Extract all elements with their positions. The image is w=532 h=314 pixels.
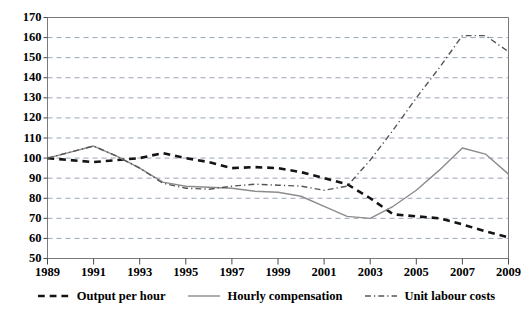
y-axis-tick-label: 140 (8, 71, 42, 84)
series-line-1 (48, 153, 509, 237)
axis-ticks-group (44, 18, 509, 265)
x-axis-tick-label: 1999 (254, 266, 302, 279)
y-axis-tick-label: 50 (8, 252, 42, 265)
y-axis-tick-label: 90 (8, 172, 42, 185)
legend-item[interactable]: Output per hour (37, 289, 166, 304)
x-axis-tick-label: 2005 (392, 266, 440, 279)
dash-dot-line-swatch (364, 290, 398, 302)
y-axis-tick-label: 170 (8, 11, 42, 24)
y-axis-tick-label: 110 (8, 132, 42, 145)
y-axis-tick-label: 160 (8, 31, 42, 44)
solid-line-swatch (187, 290, 221, 302)
y-axis-tick-label: 100 (8, 152, 42, 165)
x-axis-tick-label: 1993 (116, 266, 164, 279)
series-lines-group (48, 36, 509, 238)
legend-item-label: Hourly compensation (227, 289, 342, 304)
series-line-2 (48, 146, 509, 218)
x-axis-tick-label: 1995 (162, 266, 210, 279)
chart-legend: Output per hourHourly compensationUnit l… (0, 282, 532, 310)
x-axis-tick-label: 1997 (208, 266, 256, 279)
x-axis-tick-label: 2001 (300, 266, 348, 279)
legend-item[interactable]: Unit labour costs (364, 289, 495, 304)
series-line-3 (48, 36, 509, 191)
legend-item-label: Unit labour costs (404, 289, 495, 304)
y-axis-tick-label: 120 (8, 111, 42, 124)
x-axis-tick-label: 2009 (485, 266, 532, 279)
y-axis-tick-label: 70 (8, 212, 42, 225)
dashed-line-swatch (37, 290, 71, 302)
x-axis-tick-label: 2003 (346, 266, 394, 279)
y-axis-tick-label: 130 (8, 91, 42, 104)
legend-item[interactable]: Hourly compensation (187, 289, 342, 304)
x-axis-tick-label: 2007 (438, 266, 486, 279)
y-axis-tick-label: 60 (8, 232, 42, 245)
y-axis-tick-label: 80 (8, 192, 42, 205)
gridlines-group (48, 18, 509, 239)
x-axis-tick-label: 1991 (70, 266, 118, 279)
y-axis-tick-label: 150 (8, 51, 42, 64)
x-axis-tick-label: 1989 (24, 266, 72, 279)
legend-item-label: Output per hour (77, 289, 166, 304)
line-chart: 5060708090100110120130140150160170 19891… (0, 0, 532, 314)
